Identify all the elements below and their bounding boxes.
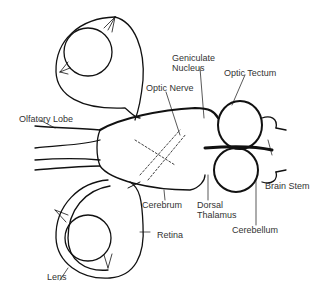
label-lens: Lens bbox=[47, 272, 67, 282]
label-cerebrum: Cerebrum bbox=[142, 200, 182, 210]
label-cerebellum: Cerebellum bbox=[232, 225, 278, 235]
label-dorsal-thalamus-line2: Thalamus bbox=[197, 210, 237, 220]
label-optic-nerve: Optic Nerve bbox=[146, 83, 194, 93]
label-geniculate-nucleus-line2: Nucleus bbox=[172, 63, 205, 73]
brain-illustration bbox=[0, 0, 320, 296]
label-olfactory-lobe: Olfatory Lobe bbox=[19, 114, 73, 124]
label-geniculate-nucleus-line1: Geniculate bbox=[172, 53, 215, 63]
fish-brain-diagram: Geniculate Nucleus Optic Tectum Optic Ne… bbox=[0, 0, 320, 296]
label-dorsal-thalamus-line1: Dorsal bbox=[197, 200, 223, 210]
label-optic-tectum: Optic Tectum bbox=[224, 68, 276, 78]
label-brain-stem: Brain Stem bbox=[265, 181, 310, 191]
upper-eye bbox=[56, 17, 143, 120]
label-retina: Retina bbox=[157, 230, 183, 240]
lower-eye bbox=[55, 180, 143, 278]
